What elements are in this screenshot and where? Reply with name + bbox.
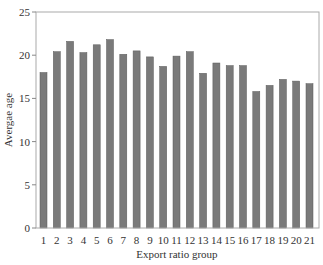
- bar-18: [266, 85, 273, 228]
- y-tick-label: 0: [25, 222, 31, 234]
- y-axis: 0510152025: [19, 6, 36, 234]
- x-tick-label: 3: [67, 234, 73, 246]
- y-tick-label: 25: [19, 6, 31, 18]
- x-axis-title: Export ratio group: [136, 248, 218, 260]
- x-tick-label: 1: [41, 234, 47, 246]
- bar-8: [133, 51, 140, 228]
- x-tick-label: 5: [94, 234, 100, 246]
- bar-1: [40, 73, 47, 229]
- bar-11: [173, 56, 180, 228]
- y-tick-label: 15: [19, 92, 31, 104]
- x-axis: 123456789101112131415161718192021: [41, 234, 315, 246]
- x-tick-label: 11: [171, 234, 182, 246]
- x-tick-label: 16: [238, 234, 250, 246]
- x-tick-label: 20: [291, 234, 303, 246]
- bar-16: [240, 66, 247, 228]
- bar-6: [107, 40, 114, 228]
- bar-2: [53, 52, 60, 228]
- x-tick-label: 19: [277, 234, 289, 246]
- x-tick-label: 15: [224, 234, 236, 246]
- x-tick-label: 7: [121, 234, 127, 246]
- bar-17: [253, 92, 260, 229]
- x-tick-label: 13: [198, 234, 210, 246]
- bar-4: [80, 53, 87, 228]
- y-tick-label: 20: [19, 49, 31, 61]
- y-tick-label: 10: [19, 136, 31, 148]
- bar-19: [279, 79, 286, 228]
- bar-15: [226, 66, 233, 228]
- bar-9: [146, 57, 153, 228]
- bar-13: [200, 73, 207, 228]
- bar-14: [213, 63, 220, 228]
- x-tick-label: 6: [107, 234, 113, 246]
- bar-7: [120, 54, 127, 228]
- bar-21: [306, 84, 313, 228]
- y-axis-title: Avergae age: [2, 93, 14, 147]
- bar-5: [93, 45, 100, 228]
- x-tick-label: 12: [184, 234, 195, 246]
- bars-group: [40, 40, 313, 228]
- x-tick-label: 4: [81, 234, 87, 246]
- bar-10: [160, 66, 167, 228]
- x-tick-label: 18: [264, 234, 276, 246]
- x-tick-label: 2: [54, 234, 60, 246]
- x-tick-label: 14: [211, 234, 223, 246]
- y-tick-label: 5: [25, 179, 31, 191]
- x-tick-label: 21: [304, 234, 315, 246]
- bar-12: [186, 52, 193, 228]
- x-tick-label: 17: [251, 234, 263, 246]
- x-tick-label: 10: [158, 234, 170, 246]
- bar-3: [67, 41, 74, 228]
- x-tick-label: 8: [134, 234, 140, 246]
- bar-20: [293, 81, 300, 228]
- x-tick-label: 9: [147, 234, 153, 246]
- bar-chart: 0510152025 12345678910111213141516171819…: [0, 0, 323, 265]
